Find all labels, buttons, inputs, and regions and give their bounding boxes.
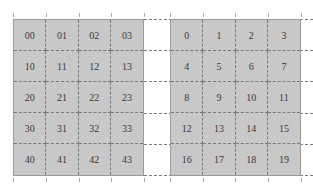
left-2d-index-grid: 00 01 02 03 10 11 12 13 20 21 22 23 30 3… bbox=[13, 19, 144, 176]
grid-cell: 19 bbox=[268, 144, 300, 175]
grid-cell: 10 bbox=[236, 82, 268, 113]
tick-mark bbox=[203, 13, 204, 17]
tick-mark bbox=[79, 13, 80, 17]
tick-mark bbox=[268, 178, 269, 182]
grid-cell: 21 bbox=[46, 82, 78, 113]
tick-mark bbox=[111, 178, 112, 182]
tick-mark bbox=[144, 178, 145, 182]
tick-mark bbox=[170, 178, 171, 182]
grid-cell: 8 bbox=[171, 82, 203, 113]
grid-cell: 18 bbox=[236, 144, 268, 175]
tick-mark bbox=[170, 13, 171, 17]
right-linear-index-grid: 0 1 2 3 4 5 6 7 8 9 10 11 12 13 14 15 16… bbox=[170, 19, 301, 176]
grid-cell: 6 bbox=[236, 51, 268, 82]
tick-mark bbox=[144, 13, 145, 17]
grid-cell: 0 bbox=[171, 20, 203, 51]
tick-mark bbox=[13, 13, 14, 17]
grid-cell: 31 bbox=[46, 113, 78, 144]
tick-mark bbox=[79, 178, 80, 182]
tick-mark bbox=[13, 178, 14, 182]
grid-cell: 42 bbox=[79, 144, 111, 175]
grid-cell: 14 bbox=[236, 113, 268, 144]
tick-mark bbox=[46, 13, 47, 17]
grid-cell: 3 bbox=[268, 20, 300, 51]
grid-cell: 00 bbox=[14, 20, 46, 51]
grid-cell: 20 bbox=[14, 82, 46, 113]
grid-cell: 43 bbox=[111, 144, 143, 175]
tick-mark bbox=[235, 178, 236, 182]
grid-cell: 40 bbox=[14, 144, 46, 175]
grid-cell: 11 bbox=[268, 82, 300, 113]
grid-cell: 12 bbox=[171, 113, 203, 144]
grid-cell: 33 bbox=[111, 113, 143, 144]
tick-mark bbox=[268, 13, 269, 17]
grid-cell: 7 bbox=[268, 51, 300, 82]
grid-cell: 32 bbox=[79, 113, 111, 144]
grid-cell: 2 bbox=[236, 20, 268, 51]
grid-cell: 23 bbox=[111, 82, 143, 113]
grid-cell: 02 bbox=[79, 20, 111, 51]
grid-cell: 12 bbox=[79, 51, 111, 82]
tick-mark bbox=[301, 13, 302, 17]
grid-cell: 10 bbox=[14, 51, 46, 82]
grid-cell: 17 bbox=[203, 144, 235, 175]
grid-cell: 41 bbox=[46, 144, 78, 175]
grid-cell: 15 bbox=[268, 113, 300, 144]
tick-mark bbox=[46, 178, 47, 182]
grid-cell: 16 bbox=[171, 144, 203, 175]
grid-cell: 03 bbox=[111, 20, 143, 51]
grid-cell: 13 bbox=[111, 51, 143, 82]
grid-cell: 22 bbox=[79, 82, 111, 113]
grid-cell: 13 bbox=[203, 113, 235, 144]
grid-cell: 4 bbox=[171, 51, 203, 82]
tick-mark bbox=[203, 178, 204, 182]
tick-mark bbox=[111, 13, 112, 17]
tick-mark bbox=[301, 178, 302, 182]
grid-cell: 1 bbox=[203, 20, 235, 51]
grid-cell: 11 bbox=[46, 51, 78, 82]
tick-mark bbox=[235, 13, 236, 17]
grid-cell: 01 bbox=[46, 20, 78, 51]
grid-cell: 5 bbox=[203, 51, 235, 82]
grid-cell: 9 bbox=[203, 82, 235, 113]
grid-cell: 30 bbox=[14, 113, 46, 144]
